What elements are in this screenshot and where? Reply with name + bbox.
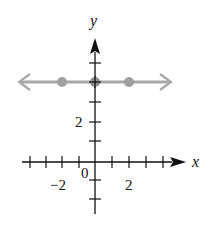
coordinate-plane: y x 0 −2 2 2 bbox=[0, 0, 213, 225]
point-2-4 bbox=[124, 77, 134, 87]
line-y-equals-4 bbox=[19, 74, 171, 90]
origin-label: 0 bbox=[81, 165, 89, 181]
y-axis-arrow-icon bbox=[90, 38, 100, 54]
y-axis bbox=[89, 38, 101, 214]
x-tick-label-2: 2 bbox=[125, 177, 133, 193]
x-tick-label-neg2: −2 bbox=[50, 177, 66, 193]
x-axis-arrow-icon bbox=[170, 157, 186, 167]
x-axis bbox=[22, 156, 186, 168]
y-axis-label: y bbox=[88, 12, 98, 30]
y-tick-label-2: 2 bbox=[75, 114, 83, 130]
x-axis-label: x bbox=[191, 153, 199, 170]
point-neg2-4 bbox=[57, 77, 67, 87]
